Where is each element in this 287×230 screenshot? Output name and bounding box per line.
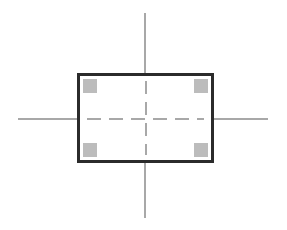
corner-pad-bottom-left bbox=[83, 143, 97, 157]
horizontal-axis-line-left bbox=[18, 118, 80, 120]
rectangle-outline bbox=[77, 73, 214, 163]
vertical-centerline bbox=[145, 81, 147, 155]
corner-pad-top-right bbox=[194, 79, 208, 93]
drawing-canvas bbox=[0, 0, 287, 230]
corner-pad-top-left bbox=[83, 79, 97, 93]
corner-pad-bottom-right bbox=[194, 143, 208, 157]
horizontal-axis-line-right bbox=[211, 118, 268, 120]
